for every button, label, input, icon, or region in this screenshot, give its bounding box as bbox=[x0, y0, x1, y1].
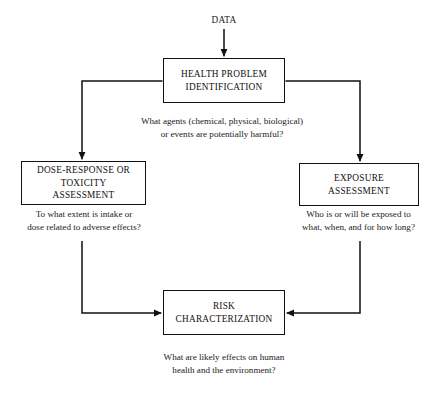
node-risk-characterization-label: RISK CHARACTERIZATION bbox=[176, 300, 273, 325]
risk-assessment-flowchart: DATA HEALTH PROBLEM IDENTIFICATION What … bbox=[0, 0, 439, 393]
node-dose-response-or-toxicity-assessment-label: DOSE-RESPONSE OR TOXICITY ASSESSMENT bbox=[37, 164, 130, 202]
connector-exposure-to-risk bbox=[287, 241, 360, 313]
node-dose-response-or-toxicity-assessment[interactable]: DOSE-RESPONSE OR TOXICITY ASSESSMENT bbox=[21, 161, 146, 205]
node-exposure-assessment[interactable]: EXPOSURE ASSESSMENT bbox=[299, 163, 419, 206]
node-health-problem-identification-label: HEALTH PROBLEM IDENTIFICATION bbox=[181, 68, 267, 93]
caption-health-problem-identification: What agents (chemical, physical, biologi… bbox=[107, 115, 337, 141]
caption-dose-response-or-toxicity-assessment: To what extent is intake or dose related… bbox=[0, 208, 168, 234]
node-health-problem-identification[interactable]: HEALTH PROBLEM IDENTIFICATION bbox=[163, 58, 285, 103]
connector-dose-to-risk bbox=[82, 241, 161, 313]
caption-exposure-assessment: Who is or will be exposed to what, when,… bbox=[278, 208, 439, 234]
node-risk-characterization[interactable]: RISK CHARACTERIZATION bbox=[163, 290, 285, 335]
caption-risk-characterization: What are likely effects on human health … bbox=[122, 351, 326, 377]
data-source-label: DATA bbox=[184, 14, 264, 26]
node-exposure-assessment-label: EXPOSURE ASSESSMENT bbox=[328, 172, 390, 197]
